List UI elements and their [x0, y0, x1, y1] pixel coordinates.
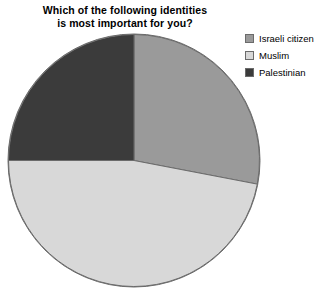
pie-slice-muslim[interactable]	[9, 161, 258, 287]
legend-item-palestinian[interactable]: Palestinian	[245, 64, 327, 80]
legend-label-israeli-citizen: Israeli citizen	[259, 33, 314, 44]
legend-swatch-israeli-citizen	[245, 34, 254, 43]
legend-label-palestinian: Palestinian	[259, 67, 305, 78]
pie-plot-area	[7, 33, 261, 288]
pie-svg	[7, 33, 261, 288]
chart-legend: Israeli citizen Muslim Palestinian	[245, 30, 327, 81]
pie-slice-israeli-citizen[interactable]	[134, 35, 260, 185]
chart-title: Which of the following identities is mos…	[14, 4, 236, 30]
legend-label-muslim: Muslim	[259, 50, 289, 61]
pie-slices	[9, 34, 260, 286]
legend-swatch-muslim	[245, 51, 254, 60]
legend-item-muslim[interactable]: Muslim	[245, 47, 327, 63]
legend-swatch-palestinian	[245, 68, 254, 77]
pie-slice-palestinian[interactable]	[9, 34, 135, 160]
pie-chart-figure: Which of the following identities is mos…	[0, 0, 328, 305]
legend-item-israeli-citizen[interactable]: Israeli citizen	[245, 30, 327, 46]
chart-title-text: Which of the following identities is mos…	[43, 4, 207, 29]
